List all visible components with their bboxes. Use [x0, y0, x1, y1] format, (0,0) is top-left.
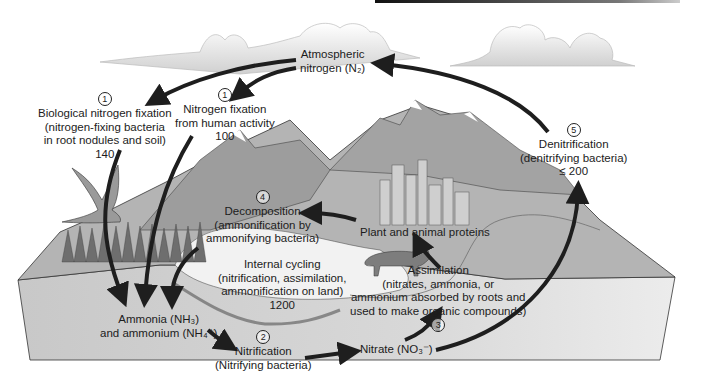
- human-fixation-value: 100: [175, 130, 275, 144]
- decomposition-line2: (ammonification by: [206, 219, 319, 233]
- internal-line3: ammonification on land): [218, 285, 346, 299]
- label-internal-cycling: Internal cycling (nitrification, assimil…: [218, 258, 346, 312]
- label-human-fixation: 1 Nitrogen fixation from human activity …: [175, 88, 275, 144]
- step-5-badge: 5: [567, 123, 581, 137]
- internal-line2: (nitrification, assimilation,: [218, 272, 346, 286]
- denitrification-value: ≤ 200: [520, 165, 627, 179]
- assimilation-line3: ammonium absorbed by roots and: [350, 291, 526, 305]
- step-3-badge: 3: [431, 318, 445, 332]
- nitrate-line1: Nitrate (NO₃⁻): [360, 343, 433, 357]
- bio-fixation-line1: Biological nitrogen fixation: [38, 107, 172, 121]
- step-1b-badge: 1: [218, 88, 232, 102]
- proteins-line1: Plant and animal proteins: [360, 226, 490, 240]
- label-nitrification: 2 Nitrification (Nitrifying bacteria): [215, 330, 312, 372]
- internal-line1: Internal cycling: [218, 258, 346, 272]
- human-fixation-line1: Nitrogen fixation: [175, 103, 275, 117]
- label-atmospheric-nitrogen: Atmospheric nitrogen (N₂): [300, 48, 365, 75]
- assimilation-line1: Assimilation: [350, 264, 526, 278]
- label-assimilation: Assimilation (nitrates, ammonia, or ammo…: [350, 264, 526, 333]
- assimilation-line2: (nitrates, ammonia, or: [350, 278, 526, 292]
- nitrogen-cycle-diagram: Atmospheric nitrogen (N₂) 1 Biological n…: [0, 0, 713, 389]
- label-denitrification: 5 Denitrification (denitrifying bacteria…: [520, 123, 627, 179]
- label-nitrate: Nitrate (NO₃⁻): [360, 343, 433, 357]
- internal-value: 1200: [218, 299, 346, 313]
- decomposition-line3: ammonifying bacteria): [206, 232, 319, 246]
- human-fixation-line2: from human activity: [175, 117, 275, 131]
- label-ammonia: Ammonia (NH₃) and ammonium (NH₄⁺): [100, 313, 217, 340]
- denitrification-line2: (denitrifying bacteria): [520, 152, 627, 166]
- ammonia-line2: and ammonium (NH₄⁺): [100, 327, 217, 341]
- step-4-badge: 4: [256, 190, 270, 204]
- denitrification-line1: Denitrification: [520, 138, 627, 152]
- label-decomposition: 4 Decomposition (ammonification by ammon…: [206, 190, 319, 246]
- bio-fixation-line3: in root nodules and soil): [38, 134, 172, 148]
- atmospheric-line1: Atmospheric: [300, 48, 365, 62]
- ammonia-line1: Ammonia (NH₃): [100, 313, 217, 327]
- label-plant-animal-proteins: Plant and animal proteins: [360, 226, 490, 240]
- bio-fixation-value: 140: [38, 148, 172, 162]
- bio-fixation-line2: (nitrogen-fixing bacteria: [38, 121, 172, 135]
- step-1-badge: 1: [98, 92, 112, 106]
- assimilation-line4: used to make organic compounds): [350, 305, 526, 319]
- cloud-right: [450, 25, 635, 66]
- decomposition-line1: Decomposition: [206, 205, 319, 219]
- nitrification-line1: Nitrification: [215, 345, 312, 359]
- nitrification-line2: (Nitrifying bacteria): [215, 359, 312, 373]
- label-biological-fixation: 1 Biological nitrogen fixation (nitrogen…: [38, 92, 172, 161]
- step-2-badge: 2: [256, 330, 270, 344]
- atmospheric-line2: nitrogen (N₂): [300, 62, 365, 76]
